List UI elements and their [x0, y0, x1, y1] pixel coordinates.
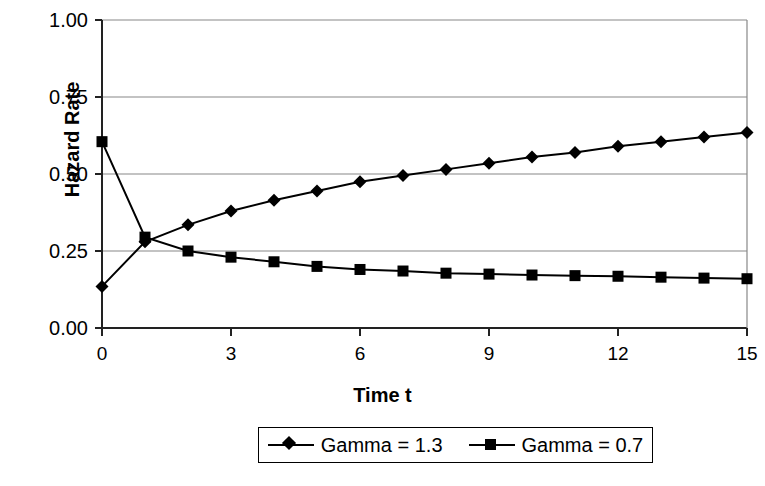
data-point-diamond: [741, 126, 754, 139]
x-axis-tick-label: 15: [727, 344, 765, 363]
data-point-square: [398, 266, 409, 277]
data-point-diamond: [655, 135, 668, 148]
data-point-square: [527, 270, 538, 281]
data-point-square: [484, 269, 495, 280]
data-point-square: [742, 273, 753, 284]
plot-area: [0, 0, 765, 486]
legend-item-gamma-1-3: Gamma = 1.3: [268, 434, 443, 457]
legend-label: Gamma = 0.7: [522, 434, 644, 457]
data-point-diamond: [354, 175, 367, 188]
x-axis-label: Time t: [0, 384, 765, 407]
data-point-diamond: [311, 184, 324, 197]
data-point-diamond: [483, 157, 496, 170]
legend-label: Gamma = 1.3: [321, 434, 443, 457]
square-marker-icon: [469, 437, 515, 453]
x-axis-tick-label: 12: [598, 344, 638, 363]
data-point-diamond: [397, 169, 410, 182]
data-point-square: [699, 273, 710, 284]
data-point-diamond: [698, 131, 711, 144]
data-point-square: [613, 271, 624, 282]
data-point-square: [140, 232, 151, 243]
data-point-square: [355, 264, 366, 275]
x-axis-tick-label: 3: [211, 344, 251, 363]
data-point-diamond: [268, 194, 281, 207]
series-line-2: [102, 142, 747, 279]
data-point-square: [269, 256, 280, 267]
data-point-square: [312, 261, 323, 272]
data-point-square: [656, 272, 667, 283]
data-point-diamond: [182, 218, 195, 231]
data-point-diamond: [612, 140, 625, 153]
data-point-square: [97, 136, 108, 147]
chart-legend: Gamma = 1.3 Gamma = 0.7: [258, 427, 653, 463]
x-axis-tick-label: 6: [340, 344, 380, 363]
series-line-1: [102, 132, 747, 286]
data-point-square: [570, 270, 581, 281]
hazard-rate-chart: Hazard Rate 0.000.250.500.751.00 0369121…: [0, 0, 765, 486]
data-point-square: [226, 252, 237, 263]
data-point-diamond: [569, 146, 582, 159]
x-axis-tick-label: 9: [469, 344, 509, 363]
data-point-diamond: [225, 204, 238, 217]
data-point-square: [441, 268, 452, 279]
x-axis-tick-label: 0: [82, 344, 122, 363]
legend-item-gamma-0-7: Gamma = 0.7: [469, 434, 644, 457]
diamond-marker-icon: [268, 437, 314, 453]
data-point-diamond: [526, 151, 539, 164]
data-point-square: [183, 246, 194, 257]
